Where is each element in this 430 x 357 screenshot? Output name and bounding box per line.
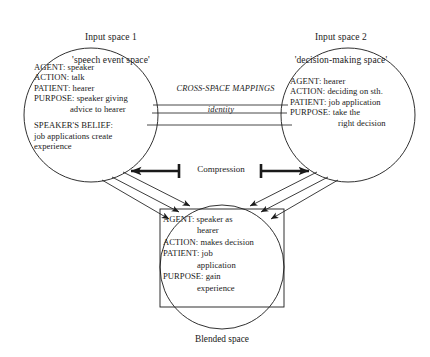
input-space-2-caption-line2: 'decision-making space'	[295, 55, 388, 65]
content-line: experience	[34, 141, 162, 151]
cross-space-mappings-title: CROSS-SPACE MAPPINGS	[177, 84, 275, 93]
blended-space-caption: Blended space	[163, 334, 281, 345]
blended-space-content: AGENT: speaker ashearerACTION: makes dec…	[163, 214, 275, 294]
content-line: ACTION: makes decision	[163, 237, 275, 247]
content-line: PURPOSE: speaker giving	[34, 93, 162, 103]
content-line: PURPOSE: gain	[163, 271, 275, 281]
blending-diagram-canvas: Input space 1 'speech event space' Input…	[0, 0, 430, 357]
content-line: AGENT: speaker	[34, 62, 162, 72]
content-line: advice to hearer	[34, 104, 162, 114]
content-line: PURPOSE: take the	[290, 107, 416, 117]
input-space-1-content: AGENT: speakerACTION: talkPATIENT: heare…	[34, 62, 162, 152]
content-line: right decision	[290, 118, 416, 128]
content-line: SPEAKER'S BELIEF:	[34, 120, 162, 130]
content-line: ACTION: deciding on sth.	[290, 86, 416, 96]
projection-arrow-left-2	[112, 177, 179, 212]
content-line: application	[163, 260, 275, 270]
content-line: PATIENT: hearer	[34, 83, 162, 93]
content-line: ACTION: talk	[34, 72, 162, 82]
projection-arrow-left-1	[102, 180, 169, 219]
cross-space-mappings-heading: CROSS-SPACE MAPPINGS identity	[160, 74, 282, 136]
content-line: hearer	[163, 225, 275, 235]
projection-arrow-right-2	[261, 177, 328, 212]
content-line: job applications create	[34, 131, 162, 141]
input-space-2-caption-line1: Input space 2	[315, 32, 367, 42]
projection-arrow-right-1	[271, 180, 338, 219]
content-line: experience	[163, 283, 275, 293]
content-line: PATIENT: job	[163, 248, 275, 258]
content-line: AGENT: speaker as	[163, 214, 275, 224]
cross-space-mappings-subtitle: identity	[160, 105, 282, 115]
input-space-2-caption: Input space 2 'decision-making space'	[258, 20, 414, 78]
compression-label: Compression	[181, 164, 261, 175]
input-space-1-caption-line1: Input space 1	[85, 32, 137, 42]
input-space-2-content: AGENT: hearerACTION: deciding on sth.PAT…	[290, 76, 416, 128]
content-line: PATIENT: job application	[290, 97, 416, 107]
content-line: AGENT: hearer	[290, 76, 416, 86]
